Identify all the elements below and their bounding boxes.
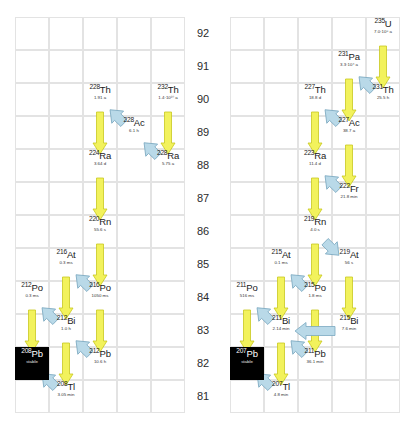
mass-number: 219	[340, 248, 350, 255]
half-life-label: 4.8 min	[274, 393, 288, 397]
decay-chain-figure: 232Th1.4·10¹⁰ a228Ra5.75 a228Ac6.1 h228T…	[0, 0, 401, 430]
mass-number: 208	[21, 347, 31, 354]
grid-cell	[332, 347, 366, 380]
nuclide-219at: 219At56 s	[332, 248, 366, 281]
mass-number: 212	[89, 347, 99, 354]
grid-cell	[15, 50, 49, 83]
mass-number: 228	[157, 149, 167, 156]
nuclide-219rn: 219Rn4.0 s	[298, 215, 332, 248]
nuclide-212po: 212Po0.3 ms	[15, 281, 49, 314]
nuclide-207tl: 207Tl4.8 min	[264, 380, 298, 413]
alpha-decay-arrow	[274, 277, 288, 319]
grid-cell	[264, 17, 298, 50]
grid-cell	[49, 116, 83, 149]
alpha-decay-arrow	[93, 244, 107, 286]
mass-number: 208	[57, 380, 67, 387]
mass-number: 224	[89, 149, 99, 156]
nuclide-215at: 215At0.1 ms	[264, 248, 298, 281]
nuclide-symbol: 231Pa	[338, 52, 360, 62]
grid-cell	[15, 248, 49, 281]
grid-cell	[49, 182, 83, 215]
nuclide-symbol: 208Pb	[21, 349, 43, 359]
axis-tick-label: 84	[188, 292, 218, 303]
alpha-decay-arrow	[342, 145, 356, 187]
nuclide-211pb: 211Pb36.1 min	[298, 347, 332, 380]
half-life-label: 3.64 d	[94, 162, 106, 166]
nuclide-symbol: 211Bi	[272, 316, 290, 326]
mass-number: 207	[236, 347, 246, 354]
alpha-decay-arrow	[308, 244, 322, 286]
actinium-series-panel: 235U7.0·10⁸ a231Th25.5 h231Pa3.3·10⁴ a22…	[215, 0, 401, 430]
nuclide-232th: 232Th1.4·10¹⁰ a	[151, 83, 185, 116]
nuclide-222fr: 222Fr21.8 min	[332, 182, 366, 215]
nuclide-symbol: 211Pb	[304, 349, 325, 359]
nuclide-symbol: 219Rn	[304, 217, 326, 227]
half-life-label: 1050 ms	[92, 294, 109, 298]
grid-cell	[230, 83, 264, 116]
grid-cell	[117, 281, 151, 314]
grid-cell	[366, 149, 400, 182]
nuclide-228ac: 228Ac6.1 h	[117, 116, 151, 149]
half-life-label: 55.6 s	[94, 228, 106, 232]
alpha-decay-arrow	[59, 277, 73, 319]
grid-cell	[151, 314, 185, 347]
nuclide-223ra: 223Ra11.4 d	[298, 149, 332, 182]
half-life-label: 7.6 min	[342, 327, 356, 331]
grid-cell	[298, 50, 332, 83]
axis-tick-label: 85	[188, 259, 218, 270]
grid-cell	[117, 215, 151, 248]
grid-cell	[15, 182, 49, 215]
nuclide-symbol: 215At	[272, 250, 291, 260]
nuclide-symbol: 211Po	[236, 283, 257, 293]
grid-cell	[332, 380, 366, 413]
alpha-decay-arrow	[342, 277, 356, 319]
grid-cell	[15, 83, 49, 116]
half-life-label: 25.5 h	[377, 96, 389, 100]
nuclide-208pb: 208Pbstable	[15, 347, 49, 380]
grid-cell	[366, 215, 400, 248]
grid-cell	[83, 50, 117, 83]
mass-number: 228	[89, 83, 99, 90]
grid-cell	[366, 347, 400, 380]
grid-cell	[366, 314, 400, 347]
grid-cell	[49, 50, 83, 83]
alpha-decay-arrow	[240, 310, 254, 352]
beta-decay-arrow	[295, 322, 335, 339]
grid-cell	[151, 281, 185, 314]
nuclide-symbol: 228Th	[89, 85, 110, 95]
grid-cell	[117, 17, 151, 50]
mass-number: 211	[236, 281, 246, 288]
grid-cell	[264, 215, 298, 248]
nuclide-symbol: 220Rn	[89, 217, 111, 227]
half-life-label: 1.0 h	[61, 327, 71, 331]
grid-cell	[332, 17, 366, 50]
nuclide-212pb: 212Pb10.6 h	[83, 347, 117, 380]
nuclide-231th: 231Th25.5 h	[366, 83, 400, 116]
half-life-label: 1.91 a	[94, 96, 106, 100]
alpha-decay-arrow	[308, 178, 322, 220]
grid-cell	[49, 215, 83, 248]
nuclide-symbol: 215Bi	[340, 316, 358, 326]
grid-cell	[151, 182, 185, 215]
grid-cell	[230, 17, 264, 50]
axis-tick-label: 91	[188, 61, 218, 72]
half-life-label: 0.3 ms	[59, 261, 72, 265]
half-life-label: 1.8 ms	[308, 294, 321, 298]
grid-cell	[151, 17, 185, 50]
grid-cell	[151, 248, 185, 281]
grid-cell	[49, 149, 83, 182]
alpha-decay-arrow	[308, 112, 322, 154]
half-life-label: stable	[241, 360, 253, 364]
grid-cell	[15, 116, 49, 149]
grid-cell	[264, 149, 298, 182]
nuclide-212bi: 212Bi1.0 h	[49, 314, 83, 347]
grid-cell	[117, 50, 151, 83]
thorium-series-panel: 232Th1.4·10¹⁰ a228Ra5.75 a228Ac6.1 h228T…	[0, 0, 190, 430]
mass-number: 222	[340, 182, 350, 189]
grid-cell	[366, 248, 400, 281]
mass-number: 207	[272, 380, 282, 387]
grid-cell	[230, 116, 264, 149]
mass-number: 211	[272, 314, 282, 321]
nuclide-235u: 235U7.0·10⁸ a	[366, 17, 400, 50]
half-life-label: 1.4·10¹⁰ a	[158, 96, 177, 100]
